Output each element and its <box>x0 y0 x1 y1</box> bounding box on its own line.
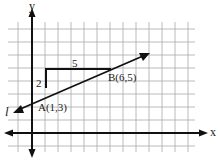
point-b-label: B(6,5) <box>108 72 136 83</box>
run-label: 5 <box>72 58 78 69</box>
y-axis-arrow-down-icon <box>29 149 36 158</box>
slope-triangle <box>46 69 111 88</box>
line-arrow-down-icon <box>13 105 24 113</box>
x-axis-label: x <box>210 126 216 138</box>
point-a-label: A(1,3) <box>38 102 67 113</box>
y-axis-label: y <box>29 0 35 12</box>
line-label: l <box>5 105 9 118</box>
rise-label: 2 <box>36 78 42 89</box>
x-axis-arrow-left-icon <box>4 130 13 137</box>
x-axis-arrow-right-icon <box>199 130 208 137</box>
